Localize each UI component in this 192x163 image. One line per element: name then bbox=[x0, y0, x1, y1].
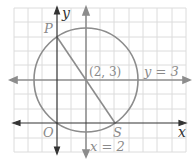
point-s-label: S bbox=[113, 125, 122, 140]
line-x2-label: x = 2 bbox=[90, 139, 125, 154]
coordinate-plane: y x O P S (2, 3) y = 3 x = 2 bbox=[0, 0, 192, 163]
point-p-label: P bbox=[43, 21, 53, 36]
y-axis-label: y bbox=[61, 5, 71, 21]
line-y3-label: y = 3 bbox=[143, 64, 179, 79]
origin-label: O bbox=[43, 125, 54, 140]
center-label: (2, 3) bbox=[89, 65, 121, 79]
x-axis-label: x bbox=[178, 124, 186, 140]
